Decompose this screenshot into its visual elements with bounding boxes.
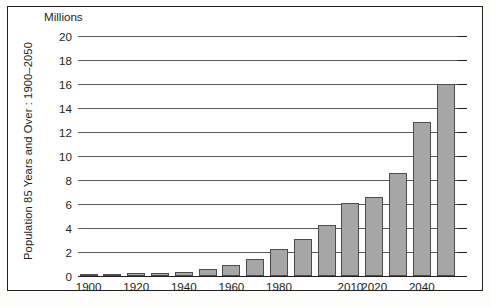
- y-axis-tick-label: 18: [59, 54, 72, 67]
- y-axis-tick-label: 8: [66, 174, 72, 187]
- bar-2010: [341, 203, 359, 276]
- bar-2020: [365, 197, 383, 276]
- bar-2050: [437, 84, 455, 276]
- y-axis-tick-label: 12: [59, 126, 72, 139]
- y-axis-right-tick: [458, 156, 467, 157]
- y-axis-right-tick: [458, 132, 467, 133]
- gridline-18: [78, 60, 458, 61]
- x-axis-tick-label-2040: 2040: [409, 280, 435, 293]
- gridline-20: [78, 36, 458, 37]
- y-axis-right-tick: [458, 204, 467, 205]
- bar-1970: [246, 259, 264, 276]
- y-axis-right-tick: [458, 36, 467, 37]
- gridline-16: [78, 84, 458, 85]
- y-axis-tick-label: 16: [59, 78, 72, 91]
- x-axis-tick-label-2010: 2010: [337, 280, 363, 293]
- y-axis-right-tick: [458, 180, 467, 181]
- y-axis-right-tick: [458, 108, 467, 109]
- gridline-10: [78, 156, 458, 157]
- y-axis-tick-label: 14: [59, 102, 72, 115]
- y-axis-tick-label: 20: [59, 30, 72, 43]
- x-axis-tick-label-1920: 1920: [123, 280, 149, 293]
- bar-1960: [222, 265, 240, 276]
- units-caption: Millions: [44, 10, 83, 23]
- y-axis-tick-label: 10: [59, 150, 72, 163]
- y-axis-tick-label: 6: [66, 198, 72, 211]
- x-axis-tick-label-1900: 1900: [76, 280, 102, 293]
- gridline-12: [78, 132, 458, 133]
- bar-2030: [389, 173, 407, 276]
- x-axis-tick-label-2020: 2020: [361, 280, 387, 293]
- y-axis-tick-label: 2: [66, 246, 72, 259]
- y-axis-tick-label: 0: [66, 270, 72, 283]
- x-axis-tick-label-1940: 1940: [171, 280, 197, 293]
- bar-2000: [318, 225, 336, 276]
- x-axis-tick-label-1980: 1980: [266, 280, 292, 293]
- y-axis-right-tick: [458, 60, 467, 61]
- gridline-14: [78, 108, 458, 109]
- y-axis-right-tick: [458, 252, 467, 253]
- x-axis-line: [78, 276, 467, 277]
- y-axis-title: Population 85 Years and Over : 1900–2050: [22, 31, 34, 271]
- plot-area: 02468101214161820 1900192019401960198020…: [78, 36, 458, 276]
- y-axis-right-tick: [458, 228, 467, 229]
- chart-figure: Population 85 Years and Over : 1900–2050…: [0, 0, 491, 307]
- bar-1950: [199, 269, 217, 276]
- bar-2040: [413, 122, 431, 276]
- y-axis-right-tick: [458, 84, 467, 85]
- x-axis-tick-label-1960: 1960: [218, 280, 244, 293]
- bar-1980: [270, 249, 288, 276]
- bar-1990: [294, 239, 312, 276]
- y-axis-tick-label: 4: [66, 222, 72, 235]
